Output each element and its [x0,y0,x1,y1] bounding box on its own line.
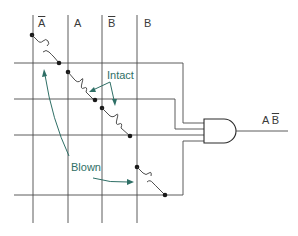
arrowhead-icon [127,179,134,185]
fuse-link-icon [102,108,130,136]
arrowhead-icon [112,99,117,106]
column-label-a-bar: A [38,18,45,29]
intact-label: Intact [107,70,134,81]
and-gate-icon [204,119,236,143]
input-columns [33,15,137,223]
fuse-broken-link-icon [32,35,49,46]
fuse-link-icon [68,72,94,100]
arrow-icon [110,82,114,100]
blown-label: Blown [71,162,101,173]
fuse-node-icon [57,61,62,66]
fuse-intact-1 [66,70,98,103]
fuse-broken-link-icon [137,167,151,176]
column-label-b: B [144,18,151,29]
fuse-node-icon [128,134,133,139]
fuse-broken-link-icon [43,51,59,64]
fuse-blown-2 [135,165,168,198]
arrow-icon [93,82,110,90]
arrow-icon [93,178,128,182]
pla-fuse-diagram [0,0,298,236]
arrow-icon [45,75,69,156]
fuse-intact-2 [100,106,133,139]
row-line-2 [14,99,204,129]
fuse-broken-link-icon [147,181,165,195]
arrowhead-icon [89,87,96,92]
fuse-blown-1 [30,33,62,66]
fuse-node-icon [163,193,168,198]
intact-arrows [89,82,117,106]
row-line-4 [14,141,204,195]
output-label: A B [262,115,279,126]
fuse-node-icon [93,98,98,103]
column-label-a: A [74,18,81,29]
arrowhead-icon [42,69,47,77]
column-label-b-bar: B [108,18,115,29]
